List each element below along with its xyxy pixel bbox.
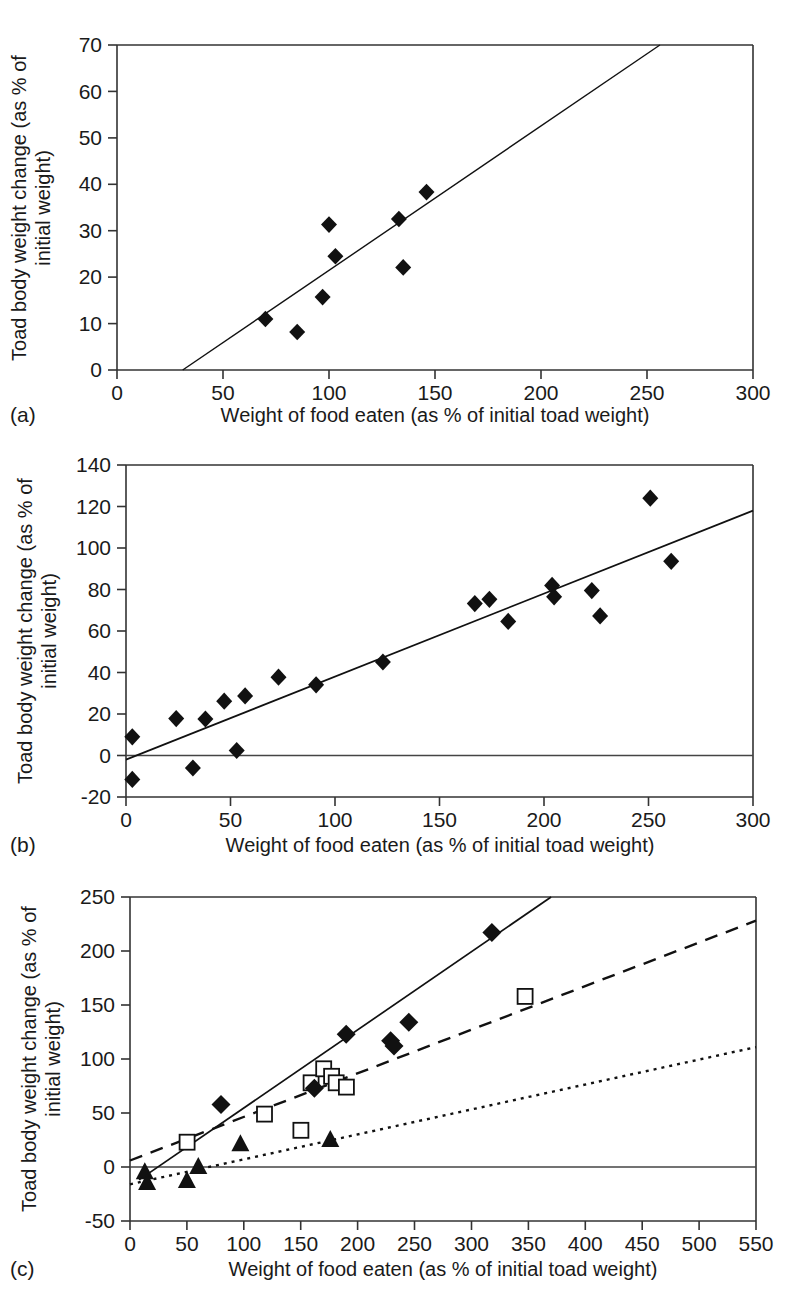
data-point (216, 693, 232, 710)
x-tick-label: 50 (219, 808, 242, 831)
data-point-square (518, 989, 533, 1004)
panel-c: -50 0 50 100 150 200 250 (0, 860, 799, 1289)
x-tick-label: 300 (735, 808, 770, 831)
panel-b-x-tick-labels: 0 50 100 150 200 250 300 (120, 808, 770, 831)
y-tick-label: 100 (76, 536, 111, 559)
regression-line (126, 511, 753, 760)
toad-growth-figure: 0 10 20 30 40 50 60 70 0 50 (0, 0, 799, 1289)
data-point-triangle (321, 1130, 339, 1147)
regression-line-dashed (130, 921, 756, 1161)
y-tick-label: -50 (85, 1209, 115, 1232)
y-tick-label: 50 (92, 1101, 115, 1124)
x-tick-label: 50 (211, 381, 234, 404)
data-point-diamond (337, 1025, 356, 1044)
data-point (546, 588, 562, 605)
x-tick-label: 350 (511, 1232, 546, 1255)
y-axis-title-line2: initial weight) (32, 150, 54, 266)
panel-b-y-ticks (117, 465, 126, 797)
data-point (481, 591, 497, 608)
y-tick-label: 60 (88, 619, 111, 642)
x-tick-label: 150 (422, 808, 457, 831)
panel-c-x-ticks (130, 1221, 756, 1230)
data-point (419, 184, 435, 201)
y-tick-label: 70 (79, 33, 102, 56)
panel-c-filled-triangles (136, 1130, 339, 1190)
data-point-square (293, 1123, 308, 1138)
y-tick-label: 10 (79, 312, 102, 335)
y-tick-label: 250 (80, 885, 115, 908)
x-tick-label: 150 (283, 1232, 318, 1255)
x-axis-title: Weight of food eaten (as % of initial to… (221, 404, 650, 426)
panel-b-chart: -20 0 20 40 60 80 100 120 140 0 (0, 430, 799, 860)
x-tick-label: 0 (111, 381, 123, 404)
data-point (315, 289, 331, 306)
panel-a-chart: 0 10 20 30 40 50 60 70 0 50 (0, 0, 799, 430)
panel-c-y-tick-labels: -50 0 50 100 150 200 250 (80, 885, 115, 1232)
data-point (168, 710, 184, 727)
data-point (500, 613, 516, 630)
data-point (663, 553, 679, 570)
data-point (229, 742, 245, 759)
panel-b-x-ticks (126, 797, 753, 806)
data-point (584, 582, 600, 599)
y-axis-title-line1: Toad body weight change (as % of (14, 478, 36, 784)
x-tick-label: 50 (175, 1232, 198, 1255)
panel-b-y-axis-title: Toad body weight change (as % of initial… (14, 478, 60, 784)
panel-letter: (b) (10, 833, 36, 856)
data-point (271, 669, 287, 686)
panel-letter: (a) (10, 403, 36, 426)
panel-a-x-ticks (117, 370, 753, 379)
panel-c-x-tick-labels: 0 50 100 150 200 250 300 350 400 450 500… (124, 1232, 773, 1255)
panel-b-axes (126, 465, 753, 797)
panel-a-data-points (257, 184, 434, 341)
data-point-diamond (482, 923, 501, 942)
data-point-diamond (212, 1095, 231, 1114)
y-tick-label: 30 (79, 219, 102, 242)
regression-line-dotted (130, 1047, 756, 1184)
data-point (467, 595, 483, 612)
panel-b: -20 0 20 40 60 80 100 120 140 0 (0, 430, 799, 860)
x-tick-label: 200 (526, 808, 561, 831)
y-tick-label: 60 (79, 80, 102, 103)
x-tick-label: 300 (454, 1232, 489, 1255)
panel-a-axes (117, 45, 753, 370)
y-tick-label: 140 (76, 453, 111, 476)
data-point (391, 211, 407, 228)
x-tick-label: 150 (417, 381, 452, 404)
data-point-diamond (399, 1013, 418, 1032)
x-tick-label: 250 (629, 381, 664, 404)
panel-c-y-axis-title: Toad body weight change (as % of initial… (18, 906, 64, 1212)
panel-c-axes (130, 897, 756, 1221)
y-tick-label: 20 (88, 702, 111, 725)
panel-a-y-tick-labels: 0 10 20 30 40 50 60 70 (79, 33, 102, 381)
y-tick-label: 80 (88, 578, 111, 601)
x-tick-label: 400 (568, 1232, 603, 1255)
y-axis-title-line1: Toad body weight change (as % of (8, 55, 30, 361)
y-tick-label: 0 (103, 1155, 115, 1178)
y-tick-label: 150 (80, 993, 115, 1016)
data-point (289, 324, 305, 341)
data-point (237, 687, 253, 704)
x-tick-label: 450 (625, 1232, 660, 1255)
panel-a: 0 10 20 30 40 50 60 70 0 50 (0, 0, 799, 430)
panel-c-open-squares (180, 989, 533, 1150)
data-point (592, 607, 608, 624)
data-point (257, 311, 273, 328)
y-tick-label: 40 (79, 172, 102, 195)
y-axis-title-line2: initial weight) (38, 573, 60, 689)
panel-a-x-tick-labels: 0 50 100 150 200 250 300 (111, 381, 770, 404)
panel-c-filled-diamonds (212, 923, 502, 1114)
data-point-square (180, 1135, 195, 1150)
x-tick-label: 0 (120, 808, 132, 831)
panel-letter: (c) (10, 1257, 35, 1280)
y-axis-title-line2: initial weight) (42, 1001, 64, 1117)
data-point (642, 490, 658, 507)
data-point (395, 259, 411, 276)
data-point (321, 216, 337, 233)
data-point-square (339, 1080, 354, 1095)
x-tick-label: 500 (682, 1232, 717, 1255)
y-tick-label: 200 (80, 939, 115, 962)
x-tick-label: 100 (311, 381, 346, 404)
data-point (185, 759, 201, 776)
y-tick-label: 20 (79, 265, 102, 288)
